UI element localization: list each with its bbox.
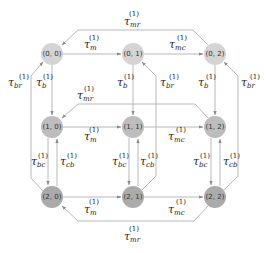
svg-text:(2, 0): (2, 0) bbox=[43, 193, 62, 201]
edge-21-01-br bbox=[142, 62, 156, 190]
svg-text:mr: mr bbox=[83, 95, 94, 103]
svg-text:(1): (1) bbox=[89, 198, 99, 206]
node-1-2: (1, 2) bbox=[204, 116, 226, 138]
state-transition-diagram: (0, 0) (0, 1) (0, 2) (1, 0) (1, 1) (1, 2… bbox=[0, 0, 267, 253]
label-c0-bc: τ bc (1) bbox=[31, 152, 48, 169]
svg-text:cb: cb bbox=[146, 161, 155, 169]
label-right-br: τ br (1) bbox=[241, 73, 260, 90]
svg-text:(1, 2): (1, 2) bbox=[206, 123, 225, 131]
svg-text:(1): (1) bbox=[176, 126, 186, 134]
svg-text:mr: mr bbox=[130, 236, 141, 244]
svg-text:b: b bbox=[123, 82, 128, 90]
svg-text:(1): (1) bbox=[43, 73, 53, 81]
svg-text:(0, 1): (0, 1) bbox=[124, 50, 143, 58]
svg-text:br: br bbox=[14, 82, 22, 90]
svg-text:br: br bbox=[166, 82, 174, 90]
svg-text:(1): (1) bbox=[177, 34, 187, 42]
label-r0-m: τ m (1) bbox=[84, 34, 99, 52]
svg-text:(1, 0): (1, 0) bbox=[43, 123, 62, 131]
svg-text:(2, 2): (2, 2) bbox=[206, 193, 225, 201]
svg-text:(1): (1) bbox=[124, 73, 134, 81]
svg-text:(0, 2): (0, 2) bbox=[206, 50, 225, 58]
label-r1-mc: τ mc (1) bbox=[168, 126, 186, 144]
svg-text:bc: bc bbox=[37, 161, 45, 169]
svg-text:(1): (1) bbox=[129, 10, 139, 18]
label-r1-m: τ m (1) bbox=[84, 126, 99, 144]
svg-text:(1): (1) bbox=[89, 126, 99, 134]
svg-text:mc: mc bbox=[174, 209, 185, 217]
svg-text:mc: mc bbox=[174, 136, 185, 144]
svg-text:bc: bc bbox=[118, 161, 126, 169]
svg-text:(2, 1): (2, 1) bbox=[124, 193, 143, 201]
node-2-1: (2, 1) bbox=[122, 186, 144, 208]
svg-text:(1): (1) bbox=[148, 152, 158, 160]
label-c2-bc: τ bc (1) bbox=[193, 152, 210, 169]
label-bot-mr: τ mr (1) bbox=[124, 225, 141, 244]
svg-text:m: m bbox=[90, 209, 97, 217]
svg-text:(1): (1) bbox=[129, 225, 139, 233]
label-r2-m: τ m (1) bbox=[84, 198, 99, 217]
svg-text:(1, 1): (1, 1) bbox=[124, 123, 143, 131]
svg-text:(1): (1) bbox=[176, 198, 186, 206]
svg-text:(1): (1) bbox=[89, 34, 99, 42]
label-c1-cb: τ cb (1) bbox=[140, 152, 158, 169]
node-2-2: (2, 2) bbox=[204, 186, 226, 208]
svg-text:b: b bbox=[42, 82, 47, 90]
node-0-2: (0, 2) bbox=[204, 43, 226, 65]
label-c0-b: τ b (1) bbox=[36, 73, 53, 90]
svg-text:m: m bbox=[90, 44, 97, 52]
svg-text:mc: mc bbox=[175, 44, 186, 52]
svg-text:(0, 0): (0, 0) bbox=[43, 50, 62, 58]
label-r0-mc: τ mc (1) bbox=[169, 34, 187, 52]
label-r2-mc: τ mc (1) bbox=[168, 198, 186, 217]
node-1-0: (1, 0) bbox=[41, 116, 63, 138]
svg-text:(1): (1) bbox=[67, 152, 77, 160]
node-0-0: (0, 0) bbox=[41, 43, 63, 65]
svg-text:(1): (1) bbox=[19, 73, 29, 81]
node-2-0: (2, 0) bbox=[41, 186, 63, 208]
node-1-1: (1, 1) bbox=[122, 116, 144, 138]
label-c1-b: τ b (1) bbox=[117, 73, 134, 90]
svg-text:mr: mr bbox=[130, 21, 141, 29]
svg-text:(1): (1) bbox=[38, 152, 48, 160]
label-c2-b: τ b (1) bbox=[198, 73, 216, 90]
label-mid-mr: τ mr (1) bbox=[77, 85, 94, 103]
label-c0-cb: τ cb (1) bbox=[60, 152, 77, 169]
svg-text:(1): (1) bbox=[206, 73, 216, 81]
svg-text:b: b bbox=[204, 82, 209, 90]
edge-12-10-mid bbox=[62, 104, 208, 118]
svg-text:(1): (1) bbox=[230, 152, 240, 160]
svg-text:(1): (1) bbox=[84, 85, 94, 93]
svg-text:(1): (1) bbox=[169, 73, 179, 81]
svg-text:m: m bbox=[90, 136, 97, 144]
svg-text:cb: cb bbox=[229, 161, 238, 169]
label-left-br: τ br (1) bbox=[8, 73, 29, 90]
svg-text:cb: cb bbox=[66, 161, 75, 169]
svg-text:(1): (1) bbox=[200, 152, 210, 160]
svg-text:bc: bc bbox=[199, 161, 207, 169]
svg-text:(1): (1) bbox=[119, 152, 129, 160]
node-0-1: (0, 1) bbox=[122, 43, 144, 65]
svg-text:(1): (1) bbox=[250, 73, 260, 81]
svg-text:br: br bbox=[247, 82, 255, 90]
label-top-mr: τ mr (1) bbox=[124, 10, 141, 29]
edge-22-02-br bbox=[224, 62, 238, 190]
label-c1-bc: τ bc (1) bbox=[112, 152, 129, 169]
label-c1-br: τ br (1) bbox=[160, 73, 179, 90]
